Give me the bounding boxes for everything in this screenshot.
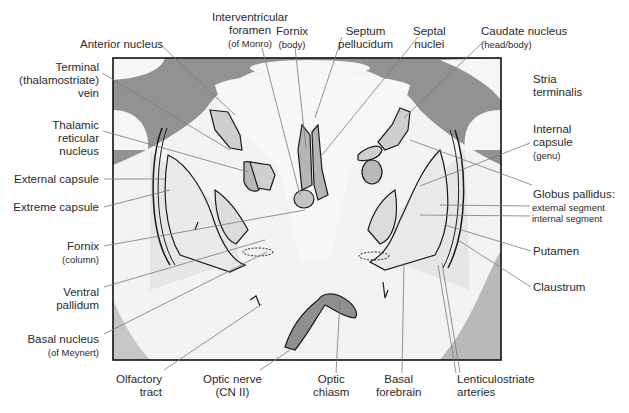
label-thalamic-reticular-nucleus: Thalamic reticular nucleus xyxy=(52,119,99,158)
label-septal-nuclei: Septal nuclei xyxy=(413,25,446,51)
label-internal-capsule: Internal capsule(genu) xyxy=(533,123,573,162)
label-fornix-body: Fornix(body) xyxy=(276,25,308,51)
label-optic-chiasm: Optic chiasm xyxy=(313,373,349,399)
label-optic-nerve: Optic nerve(CN II) xyxy=(203,373,262,399)
label-extreme-capsule: Extreme capsule xyxy=(13,201,99,214)
label-ventral-pallidum: Ventral pallidum xyxy=(56,286,99,312)
label-basal-nucleus: Basal nucleus(of Meynert) xyxy=(27,333,99,359)
label-claustrum: Claustrum xyxy=(533,281,585,294)
label-anterior-nucleus: Anterior nucleus xyxy=(80,38,163,51)
section-image xyxy=(113,58,501,360)
label-external-capsule: External capsule xyxy=(14,173,99,186)
label-caudate-nucleus: Caudate nucleus(head/body) xyxy=(481,25,567,51)
label-basal-forebrain: Basal forebrain xyxy=(376,373,421,399)
label-gp-internal-segment: internal segment xyxy=(532,212,602,225)
label-olfactory-tract: Olfactory tract xyxy=(116,373,162,399)
label-terminal-vein: Terminal (thalamostriate) vein xyxy=(19,61,99,100)
label-globus-pallidus: Globus pallidus: xyxy=(533,188,615,201)
label-lenticulostriate-arteries: Lenticulostriate arteries xyxy=(457,373,534,399)
label-stria-terminalis: Stria terminalis xyxy=(533,73,582,99)
label-septum-pellucidum: Septum pellucidum xyxy=(338,25,393,51)
label-fornix-column: Fornix(column) xyxy=(62,240,99,266)
label-putamen: Putamen xyxy=(533,245,579,258)
